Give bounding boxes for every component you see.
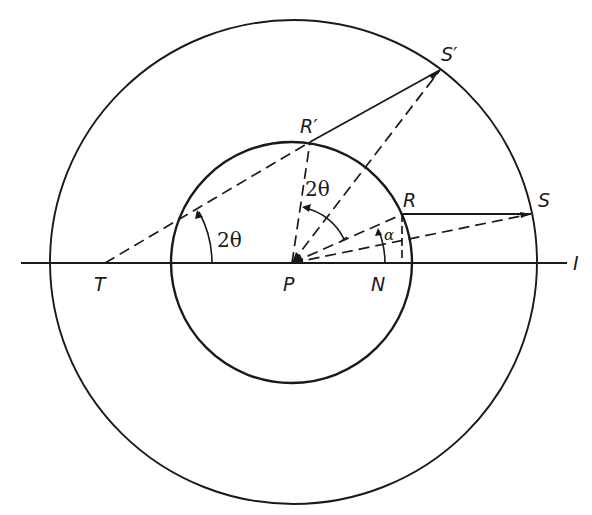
label-angle-T: 2θ (217, 228, 242, 252)
angle-arc-P (305, 208, 344, 239)
label-P: P (283, 273, 295, 295)
label-R-prime: R′ (300, 115, 318, 137)
arrowhead-at-Sprime (429, 70, 440, 80)
label-N: N (371, 273, 385, 295)
geometry-diagram: T P N R R′ S S′ I 2θ 2θ α (0, 0, 592, 515)
angle-arc-T (199, 212, 212, 263)
segment-P-Sprime (292, 70, 440, 263)
label-alpha: α (384, 226, 394, 244)
angle-arrow-P (302, 204, 311, 212)
label-T: T (94, 273, 107, 295)
label-angle-P: 2θ (305, 177, 330, 201)
label-I: I (573, 252, 579, 274)
segment-P-Rprime (292, 142, 310, 263)
angle-arrow-alpha (375, 228, 382, 236)
segment-T-Rprime (105, 142, 310, 263)
segment-Rprime-Sprime (310, 70, 440, 142)
label-S: S (538, 189, 550, 211)
label-R: R (403, 189, 416, 211)
label-S-prime: S′ (441, 43, 458, 65)
